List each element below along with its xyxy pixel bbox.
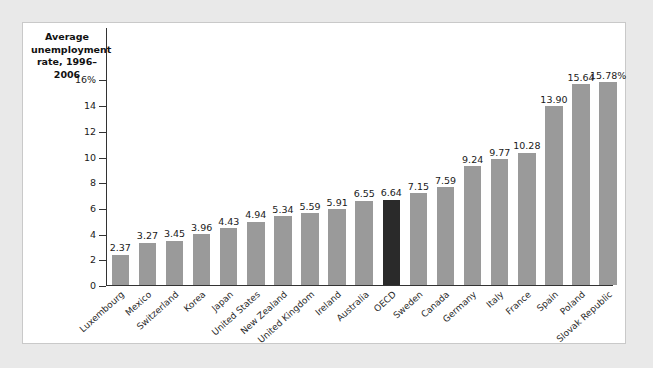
bar-group-japan[interactable]: 4.43Japan	[215, 28, 242, 285]
bar-group-korea[interactable]: 3.96Korea	[188, 28, 215, 285]
bar[interactable]: 15.64	[572, 84, 590, 285]
bar[interactable]: 6.55	[355, 201, 373, 285]
bar-group-switzerland[interactable]: 3.45Switzerland	[161, 28, 188, 285]
bar[interactable]: 6.64	[383, 200, 401, 285]
bar-value-label: 2.37	[110, 243, 131, 253]
y-axis-title-line-2: unemployment	[31, 44, 103, 57]
bar[interactable]: 10.28	[518, 153, 536, 285]
y-tick-mark	[99, 183, 106, 184]
bar-group-mexico[interactable]: 3.27Mexico	[134, 28, 161, 285]
y-axis-title-line-1: Average	[31, 31, 103, 44]
y-tick-label: 16%	[75, 76, 96, 86]
bar-group-united-kingdom[interactable]: 5.59United Kingdom	[297, 28, 324, 285]
bar-group-poland[interactable]: 15.64Poland	[568, 28, 595, 285]
y-tick-mark	[99, 235, 106, 236]
bar-group-italy[interactable]: 9.77Italy	[486, 28, 513, 285]
bar-value-label: 9.24	[462, 155, 483, 165]
y-tick-label: 4	[90, 230, 96, 240]
x-tick-label: Italy	[485, 290, 506, 310]
bar[interactable]: 3.96	[193, 234, 211, 285]
bar[interactable]: 15.78%	[599, 82, 617, 285]
bar[interactable]: 3.45	[166, 241, 184, 285]
chart-screenshot: Average unemployment rate, 1996–2006 024…	[0, 0, 653, 368]
bar-value-label: 5.34	[272, 205, 293, 215]
bar[interactable]: 3.27	[139, 243, 157, 285]
y-tick-label: 2	[90, 256, 96, 266]
bar-value-label: 15.78%	[590, 71, 626, 81]
bar[interactable]: 4.94	[247, 222, 265, 285]
y-tick-mark	[99, 80, 106, 81]
plot-area: 0246810121416% 2.37Luxembourg3.27Mexico3…	[106, 28, 614, 286]
y-tick-label: 10	[84, 153, 96, 163]
bar[interactable]: 7.59	[437, 187, 455, 285]
bar-value-label: 13.90	[540, 95, 567, 105]
bar[interactable]: 9.24	[464, 166, 482, 285]
bar-group-oecd[interactable]: 6.64OECD	[378, 28, 405, 285]
bar-group-united-states[interactable]: 4.94United States	[243, 28, 270, 285]
bar-group-germany[interactable]: 9.24Germany	[459, 28, 486, 285]
bar-value-label: 3.96	[191, 223, 212, 233]
x-tick-label: France	[505, 290, 533, 317]
bar[interactable]: 5.34	[274, 216, 292, 285]
y-tick-label: 14	[84, 101, 96, 111]
bar-value-label: 3.27	[137, 231, 158, 241]
x-axis-line	[106, 285, 613, 286]
y-tick-mark	[99, 158, 106, 159]
bar-series: 2.37Luxembourg3.27Mexico3.45Switzerland3…	[107, 28, 613, 285]
bar-group-spain[interactable]: 13.90Spain	[541, 28, 568, 285]
bar-group-slovak-republic[interactable]: 15.78%Slovak Republic	[595, 28, 622, 285]
y-tick-label: 6	[90, 204, 96, 214]
bar-value-label: 7.59	[435, 176, 456, 186]
bar[interactable]: 7.15	[410, 193, 428, 285]
x-tick-label: Sweden	[392, 290, 424, 320]
y-tick-label: 8	[90, 178, 96, 188]
bar-value-label: 4.43	[218, 217, 239, 227]
y-tick-mark	[99, 209, 106, 210]
bar-value-label: 10.28	[513, 141, 540, 151]
bar-value-label: 6.55	[354, 189, 375, 199]
bar-value-label: 6.64	[381, 188, 402, 198]
chart-panel: Average unemployment rate, 1996–2006 024…	[22, 22, 626, 344]
y-tick-label: 0	[90, 281, 96, 291]
bar-group-sweden[interactable]: 7.15Sweden	[405, 28, 432, 285]
bar-group-france[interactable]: 10.28France	[514, 28, 541, 285]
y-tick-mark	[99, 286, 106, 287]
bar-value-label: 5.91	[327, 198, 348, 208]
bar-group-new-zealand[interactable]: 5.34New Zealand	[270, 28, 297, 285]
bar-group-ireland[interactable]: 5.91Ireland	[324, 28, 351, 285]
bar-value-label: 5.59	[299, 202, 320, 212]
x-tick-label: Spain	[535, 290, 560, 314]
y-tick-mark	[99, 260, 106, 261]
x-tick-label: Luxembourg	[79, 290, 127, 334]
bar[interactable]: 13.90	[545, 106, 563, 285]
bar[interactable]: 5.59	[301, 213, 319, 285]
y-tick-label: 12	[84, 127, 96, 137]
bar-value-label: 9.77	[489, 148, 510, 158]
y-tick-mark	[99, 106, 106, 107]
bar-group-luxembourg[interactable]: 2.37Luxembourg	[107, 28, 134, 285]
bar[interactable]: 5.91	[328, 209, 346, 285]
bar-value-label: 7.15	[408, 182, 429, 192]
bar[interactable]: 4.43	[220, 228, 238, 285]
y-tick-mark	[99, 132, 106, 133]
y-axis-title: Average unemployment rate, 1996–2006	[31, 31, 103, 81]
x-tick-label: Korea	[183, 290, 208, 314]
bar-group-canada[interactable]: 7.59Canada	[432, 28, 459, 285]
bar[interactable]: 9.77	[491, 159, 509, 285]
bar-value-label: 4.94	[245, 210, 266, 220]
bar[interactable]: 2.37	[112, 255, 130, 285]
bar-group-australia[interactable]: 6.55Australia	[351, 28, 378, 285]
bar-value-label: 3.45	[164, 229, 185, 239]
